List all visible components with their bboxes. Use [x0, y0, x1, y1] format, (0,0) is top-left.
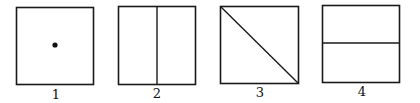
diagonal-divider	[221, 7, 299, 84]
figure-label-4: 4	[358, 84, 366, 99]
figure-label-3: 3	[256, 85, 264, 100]
figure-label-2: 2	[153, 86, 161, 101]
center-dot-icon	[52, 42, 57, 47]
figure-1: 1	[17, 8, 94, 103]
figure-label-1: 1	[52, 87, 60, 102]
square-4	[323, 6, 400, 83]
figure-2: 2	[119, 7, 196, 102]
figure-diagram: 1 2 3 4	[0, 0, 420, 103]
figure-4: 4	[323, 6, 400, 100]
figure-3: 3	[221, 7, 299, 101]
